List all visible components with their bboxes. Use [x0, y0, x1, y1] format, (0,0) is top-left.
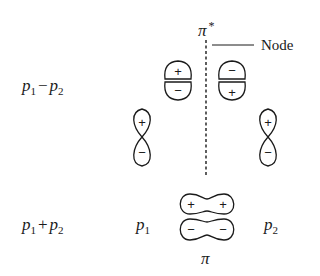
combination-minus-label: p1−p2: [22, 77, 64, 97]
combo-minus-b: p: [50, 76, 59, 95]
sign-ab-right-bottom: +: [228, 85, 236, 100]
combo-minus-op: −: [36, 76, 50, 95]
combo-plus-b: p: [50, 215, 59, 234]
sign-p1-bottom: −: [138, 145, 146, 160]
bonding-label: π: [201, 250, 210, 267]
combo-minus-b-sub: 2: [58, 85, 64, 97]
atom-p1-base: p: [136, 215, 145, 234]
sign-ab-left-bottom: −: [174, 83, 182, 98]
sign-ab-right-top: −: [228, 63, 236, 78]
sign-b-top-left: +: [187, 197, 195, 212]
antibonding-pi: π: [198, 21, 207, 40]
sign-ab-left-top: +: [174, 64, 182, 79]
sign-p2-top: +: [264, 115, 272, 130]
sign-p1-top: +: [138, 115, 146, 130]
atom-p2-label: p2: [264, 216, 278, 236]
sign-b-bottom-left: −: [187, 222, 195, 237]
combination-plus-label: p1+p2: [22, 216, 64, 236]
sign-b-top-right: +: [219, 197, 227, 212]
atom-p1-label: p1: [136, 216, 150, 236]
combo-plus-op: +: [36, 215, 50, 234]
antibonding-star: *: [209, 19, 215, 33]
combo-plus-b-sub: 2: [58, 224, 64, 236]
antibonding-label: π*: [198, 20, 215, 39]
atom-p2-base: p: [264, 215, 273, 234]
combo-plus-a: p: [22, 215, 31, 234]
atom-p1-sub: 1: [145, 224, 151, 236]
node-label: Node: [261, 38, 294, 53]
sign-b-bottom-right: −: [219, 222, 227, 237]
sign-p2-bottom: −: [264, 145, 272, 160]
atom-p2-sub: 2: [273, 224, 279, 236]
combo-minus-a: p: [22, 76, 31, 95]
